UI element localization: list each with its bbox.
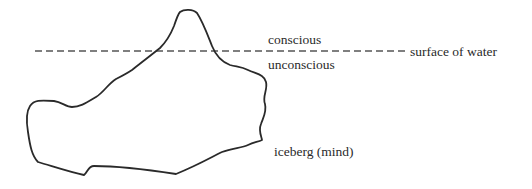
conscious-label: conscious: [268, 33, 321, 47]
surface-of-water-label: surface of water: [410, 45, 497, 59]
unconscious-label: unconscious: [268, 58, 335, 72]
iceberg-outline: [27, 10, 267, 175]
iceberg-diagram: [0, 0, 532, 189]
iceberg-mind-label: iceberg (mind): [274, 145, 354, 159]
